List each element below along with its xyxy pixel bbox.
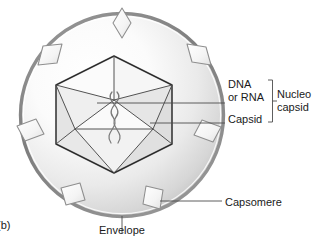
label-capsid: Capsid — [228, 113, 262, 126]
bracket-body — [268, 80, 273, 122]
label-dna: DNA — [228, 78, 251, 91]
label-or-rna: or RNA — [228, 91, 264, 104]
label-nucleo: Nucleo — [277, 88, 311, 101]
nucleocapsid-bracket — [268, 80, 277, 122]
label-envelope: Envelope — [99, 224, 145, 237]
label-nucleocapsid-second-line: capsid — [277, 101, 309, 114]
label-capsomere: Capsomere — [225, 196, 282, 209]
virus-diagram-svg — [0, 0, 326, 246]
panel-letter: (b) — [0, 219, 10, 231]
virus-structure-figure: DNA or RNA Capsid Nucleo capsid Capsomer… — [0, 0, 326, 246]
